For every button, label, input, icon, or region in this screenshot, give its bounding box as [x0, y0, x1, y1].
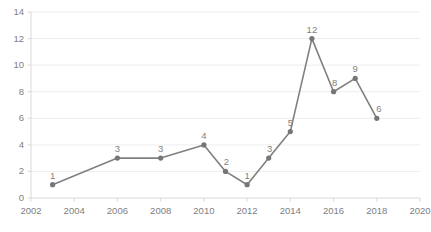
chart-plot-area — [0, 0, 431, 232]
data-point-2003 — [50, 182, 55, 187]
data-label-2006: 3 — [107, 144, 127, 154]
data-label-2016: 8 — [325, 78, 345, 88]
data-point-2008 — [158, 156, 163, 161]
data-label-2008: 3 — [151, 144, 171, 154]
y-tick-label-10: 10 — [4, 60, 24, 70]
data-point-2018 — [374, 116, 379, 121]
data-point-2012 — [245, 182, 250, 187]
data-point-2017 — [353, 76, 358, 81]
x-tick-label-2016: 2016 — [314, 206, 354, 216]
data-point-2016 — [331, 89, 336, 94]
x-axis-ticks — [31, 198, 420, 202]
data-point-2013 — [266, 156, 271, 161]
y-tick-label-14: 14 — [4, 7, 24, 17]
data-line-series-1 — [53, 39, 377, 185]
data-label-2015: 12 — [302, 25, 322, 35]
y-axis-ticks — [28, 12, 32, 198]
data-markers — [50, 36, 379, 187]
y-tick-label-12: 12 — [4, 34, 24, 44]
data-point-2011 — [223, 169, 228, 174]
x-tick-label-2010: 2010 — [184, 206, 224, 216]
x-tick-label-2006: 2006 — [97, 206, 137, 216]
x-tick-label-2008: 2008 — [141, 206, 181, 216]
x-tick-label-2002: 2002 — [11, 206, 51, 216]
data-label-2011: 2 — [217, 157, 237, 167]
data-label-2014: 5 — [280, 118, 300, 128]
x-tick-label-2020: 2020 — [400, 206, 431, 216]
line-chart: 14 12 10 8 6 4 2 0 2002 2004 2006 2008 2… — [0, 0, 431, 232]
x-tick-label-2014: 2014 — [270, 206, 310, 216]
data-point-2014 — [288, 129, 293, 134]
data-point-2015 — [309, 36, 314, 41]
y-tick-label-6: 6 — [4, 113, 24, 123]
data-label-2010: 4 — [194, 131, 214, 141]
x-tick-label-2018: 2018 — [357, 206, 397, 216]
y-tick-label-0: 0 — [4, 193, 24, 203]
data-point-2006 — [115, 156, 120, 161]
data-label-2003: 1 — [43, 171, 63, 181]
y-tick-label-2: 2 — [4, 166, 24, 176]
data-label-2013: 3 — [260, 144, 280, 154]
y-tick-label-8: 8 — [4, 87, 24, 97]
x-tick-label-2004: 2004 — [54, 206, 94, 216]
data-label-2018: 6 — [369, 104, 389, 114]
data-label-2017: 9 — [345, 64, 365, 74]
data-point-2010 — [201, 142, 206, 147]
y-tick-label-4: 4 — [4, 140, 24, 150]
data-label-2012: 1 — [237, 171, 257, 181]
x-tick-label-2012: 2012 — [227, 206, 267, 216]
